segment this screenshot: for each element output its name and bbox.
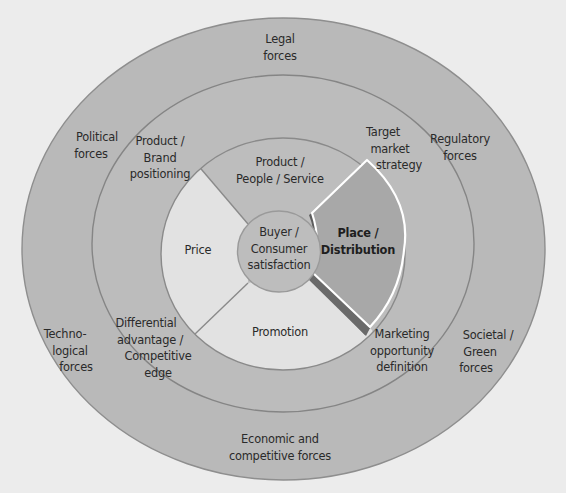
product-segment-label: Product / People / Service bbox=[236, 154, 324, 187]
price-segment-label: Price bbox=[185, 242, 212, 259]
label-line: forces bbox=[439, 360, 514, 377]
label-line: logical bbox=[47, 343, 92, 360]
label-line: positioning bbox=[130, 166, 191, 183]
label-line: forces bbox=[263, 48, 296, 65]
label-line: Legal bbox=[263, 31, 296, 48]
target-market-strategy-label: Target market strategy bbox=[362, 124, 422, 174]
political-forces-label: Political forces bbox=[68, 129, 118, 162]
label-line: advantage / bbox=[108, 332, 191, 349]
societal-green-forces-label: Societal / Green forces bbox=[449, 327, 514, 377]
label-line: Place / bbox=[321, 225, 395, 242]
legal-forces-label: Legal forces bbox=[263, 31, 296, 64]
label-line: Techno- bbox=[37, 326, 92, 343]
label-line: forces bbox=[64, 146, 118, 163]
marketing-opportunity-label: Marketing opportunity definition bbox=[370, 326, 434, 376]
label-line: strategy bbox=[376, 157, 422, 174]
label-line: Economic and bbox=[229, 431, 331, 448]
promotion-segment-label: Promotion bbox=[252, 324, 308, 341]
label-line: Distribution bbox=[321, 242, 395, 259]
label-line: Product / bbox=[130, 133, 191, 150]
label-line: market bbox=[358, 141, 422, 158]
label-line: Competitive bbox=[124, 348, 191, 365]
center-line-2: Consumer bbox=[247, 241, 310, 258]
label-line: opportunity bbox=[370, 343, 434, 360]
label-line: Target bbox=[344, 124, 422, 141]
label-line: Regulatory bbox=[430, 131, 490, 148]
label-line: Product / bbox=[236, 154, 324, 171]
label-line: Differential bbox=[100, 315, 191, 332]
center-line-3: satisfaction bbox=[247, 257, 310, 274]
label-line: forces bbox=[59, 359, 92, 376]
label-line: Marketing bbox=[370, 326, 434, 343]
label-line: definition bbox=[370, 359, 434, 376]
economic-competitive-forces-label: Economic and competitive forces bbox=[229, 431, 331, 464]
label-line: edge bbox=[124, 365, 191, 382]
label-line: forces bbox=[430, 148, 490, 165]
label-line: Societal / bbox=[463, 327, 514, 344]
center-label: Buyer / Consumer satisfaction bbox=[247, 224, 310, 274]
technological-forces-label: Techno- logical forces bbox=[47, 326, 92, 376]
center-line-1: Buyer / bbox=[247, 224, 310, 241]
regulatory-forces-label: Regulatory forces bbox=[430, 131, 490, 164]
product-brand-positioning-label: Product / Brand positioning bbox=[130, 133, 191, 183]
label-line: Brand bbox=[130, 150, 191, 167]
label-line: Green bbox=[447, 344, 514, 361]
label-line: competitive forces bbox=[229, 448, 331, 465]
label-line: Price bbox=[185, 242, 212, 259]
differential-advantage-label: Differential advantage / Competitive edg… bbox=[112, 315, 191, 381]
label-line: Political bbox=[76, 129, 118, 146]
place-distribution-label: Place / Distribution bbox=[321, 225, 395, 258]
marketing-environment-diagram: Buyer / Consumer satisfaction Product / … bbox=[0, 0, 566, 493]
label-line: Promotion bbox=[252, 324, 308, 341]
label-line: People / Service bbox=[236, 171, 324, 188]
